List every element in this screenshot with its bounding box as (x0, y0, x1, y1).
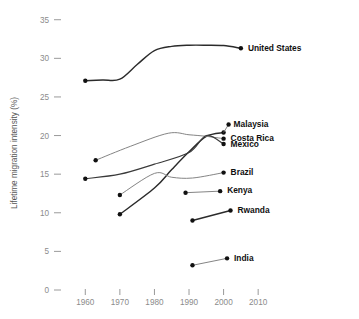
series-line-india (192, 258, 227, 265)
y-axis-title: Lifetime migration intensity (%) (10, 97, 19, 209)
series-marker-united-states (83, 79, 87, 83)
series-marker-kenya (183, 191, 187, 195)
label-rwanda: Rwanda (238, 205, 270, 215)
series-marker-kenya (218, 189, 222, 193)
label-united-states: United States (248, 43, 302, 53)
series-line-united-states (85, 45, 241, 81)
series-line-kenya (186, 191, 221, 193)
y-tick-label: 0 (44, 286, 49, 295)
y-tick-label: 10 (40, 209, 50, 218)
series-marker-brazil (221, 170, 225, 174)
label-malaysia-marker (226, 122, 230, 126)
series-marker-mexico (83, 177, 87, 181)
x-tick-label: 1970 (111, 298, 130, 307)
series-marker-united-states (239, 46, 243, 50)
series-marker-costa-rica (93, 158, 97, 162)
label-mexico: Mexico (231, 139, 259, 149)
series-line-rwanda (192, 210, 230, 220)
label-malaysia: Malaysia (234, 119, 269, 129)
series-line-mexico (85, 135, 223, 178)
x-tick-label: 1980 (145, 298, 164, 307)
series-marker-costa-rica (221, 136, 225, 140)
label-brazil: Brazil (231, 167, 254, 177)
y-tick-label: 30 (40, 54, 50, 63)
series-labels-group: United StatesMalaysiaCosta RicaMexicoBra… (224, 43, 302, 263)
series-marker-india (190, 263, 194, 267)
series-lines-group (85, 45, 241, 265)
x-tick-label: 1960 (76, 298, 95, 307)
y-tick-label: 20 (40, 132, 50, 141)
y-tick-label: 15 (40, 170, 50, 179)
y-tick-label: 5 (44, 247, 49, 256)
series-marker-mexico (221, 142, 225, 146)
series-marker-rwanda (190, 218, 194, 222)
series-marker-brazil (118, 193, 122, 197)
series-markers-group (83, 46, 243, 267)
x-axis-ticks: 196019701980199020002010 (76, 289, 268, 307)
series-marker-india (225, 256, 229, 260)
label-kenya: Kenya (227, 185, 252, 195)
series-marker-malaysia (221, 130, 225, 134)
y-tick-label: 35 (40, 16, 50, 25)
series-marker-rwanda (228, 208, 232, 212)
label-india: India (234, 253, 254, 263)
x-tick-label: 1990 (180, 298, 199, 307)
x-tick-label: 2000 (214, 298, 233, 307)
series-marker-malaysia (118, 212, 122, 216)
y-tick-label: 25 (40, 93, 50, 102)
x-tick-label: 2010 (249, 298, 268, 307)
y-axis-ticks: 05101520253035 (40, 16, 61, 295)
line-chart-migration-intensity: 05101520253035 196019701980199020002010 … (0, 0, 359, 319)
chart-canvas: 05101520253035 196019701980199020002010 … (0, 0, 359, 319)
